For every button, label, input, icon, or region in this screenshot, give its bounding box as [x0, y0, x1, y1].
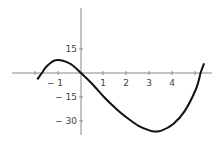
chart: − 1 1 2 3 4 15 − 15 − 30: [0, 0, 224, 146]
y-tick-label: − 15: [55, 92, 77, 102]
x-tick-label: 2: [123, 78, 129, 88]
x-tick-label: 1: [100, 78, 106, 88]
x-tick-label: 4: [169, 78, 175, 88]
x-tick-label: − 1: [47, 78, 63, 88]
x-tick-label: 3: [146, 78, 152, 88]
y-tick-label: 15: [66, 44, 77, 54]
y-tick-label: − 30: [55, 116, 77, 126]
